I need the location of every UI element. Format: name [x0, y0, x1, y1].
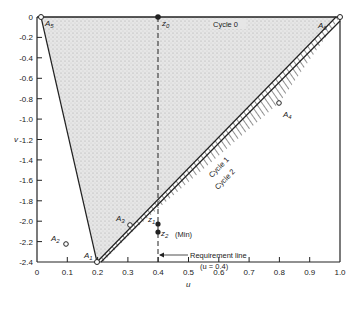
y-tick-labels: 0 -0.2 -0.4 -0.6 -0.8 -1.0 -1.2 -1.4 -1.… — [19, 13, 33, 267]
y-ticks — [37, 37, 42, 241]
arrow-head-icon — [159, 253, 164, 258]
label-a1: A1 — [83, 251, 93, 261]
y-tick-label: -0.2 — [19, 33, 33, 42]
point-a1 — [95, 260, 100, 265]
label-min: (Min) — [175, 230, 193, 239]
label-requirement-line: Requirement line — [190, 251, 247, 260]
point-a5 — [39, 15, 44, 20]
x-tick-label: 0.1 — [62, 268, 74, 277]
x-tick-label: 0.3 — [122, 268, 134, 277]
x-tick-label: 0 — [35, 268, 40, 277]
label-z2: z2 — [160, 229, 169, 239]
diagram-figure: 0 -0.2 -0.4 -0.6 -0.8 -1.0 -1.2 -1.4 -1.… — [0, 0, 355, 325]
x-tick-label: 0.9 — [304, 268, 316, 277]
x-axis-label: u — [186, 280, 191, 289]
y-tick-label: -1.6 — [19, 176, 33, 185]
y-tick-label: -2.0 — [19, 217, 33, 226]
y-tick-label: -1.4 — [19, 156, 33, 165]
point-a3 — [128, 223, 133, 228]
cycle0-region — [41, 17, 340, 262]
point-a2 — [64, 242, 69, 247]
point-z0 — [155, 14, 161, 20]
point-z2 — [155, 229, 160, 234]
x-tick-label: 0.8 — [274, 268, 286, 277]
label-z1: z1 — [147, 215, 155, 225]
label-requirement-value: (u = 0.4) — [200, 262, 229, 271]
y-tick-label: -2.2 — [19, 238, 33, 247]
x-tick-label: 0.4 — [153, 268, 165, 277]
x-tick-label: 0.2 — [92, 268, 104, 277]
y-tick-label: -1.2 — [19, 136, 33, 145]
label-a2: A2 — [50, 234, 60, 244]
y-tick-label: -0.4 — [19, 54, 33, 63]
y-tick-label: 0 — [29, 13, 34, 22]
y-tick-label: -0.6 — [19, 74, 33, 83]
y-tick-label: -1.0 — [19, 115, 33, 124]
point-a4 — [277, 101, 282, 106]
y-tick-label: -0.8 — [19, 95, 33, 104]
x-tick-label: 1.0 — [334, 268, 346, 277]
y-tick-label: -1.8 — [19, 197, 33, 206]
x-tick-label: 0.7 — [244, 268, 256, 277]
x-tick-labels: 0 0.1 0.2 0.3 0.4 0.5 0.6 0.7 0.8 0.9 1.… — [35, 268, 346, 277]
point-a6 — [338, 15, 343, 20]
label-cycle0: Cycle 0 — [213, 20, 238, 29]
y-tick-label: -2.4 — [19, 258, 33, 267]
label-a4: A4 — [282, 110, 292, 120]
x-tick-label: 0.5 — [183, 268, 195, 277]
point-z1 — [155, 221, 160, 226]
